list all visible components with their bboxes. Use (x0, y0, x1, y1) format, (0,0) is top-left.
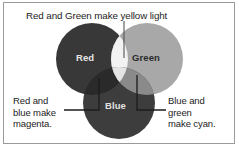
caption-red-blue-magenta: Red and blue make magenta. (13, 95, 56, 130)
circle-label-blue: Blue (105, 100, 126, 111)
circle-label-green: Green (132, 52, 160, 63)
caption-top: Red and Green make yellow light (26, 10, 167, 22)
caption-blue-green-cyan: Blue and green make cyan. (168, 95, 216, 130)
circle-label-red: Red (76, 52, 94, 63)
color-mixing-figure: Red and Green make yellow light Red and … (0, 0, 239, 148)
